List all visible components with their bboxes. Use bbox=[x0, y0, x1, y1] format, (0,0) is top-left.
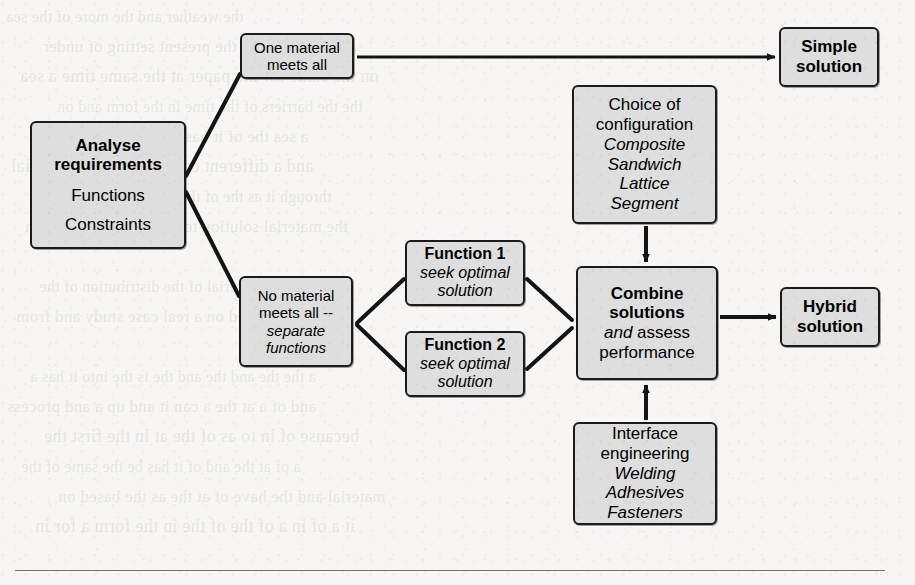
node-choice-config: Choice ofconfigurationCompositeSandwichL… bbox=[572, 85, 717, 224]
node-function-2-line-2: solution bbox=[437, 373, 492, 392]
node-analyse-line-3: Constraints bbox=[65, 215, 151, 235]
node-interface-engineering-line-1: engineering bbox=[601, 444, 690, 464]
edge-no-material-to-function-1 bbox=[357, 279, 404, 323]
node-analyse-line-2: Functions bbox=[71, 186, 145, 206]
node-function-2-line-1: seek optimal bbox=[420, 355, 510, 374]
node-choice-config-line-3: Sandwich bbox=[608, 155, 682, 175]
edge-no-material-to-function-2 bbox=[357, 325, 404, 370]
edge-function-2-to-combine bbox=[527, 328, 572, 369]
edge-analyse-to-one-material bbox=[186, 74, 240, 176]
node-function-1-line-1: seek optimal bbox=[420, 264, 510, 283]
node-combine-solutions-line-3: performance bbox=[599, 343, 694, 363]
node-interface-engineering-line-0: Interface bbox=[612, 424, 678, 444]
node-simple-solution-line-1: solution bbox=[796, 57, 862, 77]
node-function-2: Function 2seek optimalsolution bbox=[405, 331, 525, 397]
node-interface-engineering-line-3: Adhesives bbox=[606, 483, 684, 503]
node-function-1-line-2: solution bbox=[437, 282, 492, 301]
node-no-material-line-3: functions bbox=[266, 339, 326, 356]
node-choice-config-line-0: Choice of bbox=[609, 95, 681, 115]
node-combine-solutions-line-2: and assess bbox=[604, 323, 690, 343]
node-hybrid-solution: Hybridsolution bbox=[780, 287, 880, 347]
node-function-1-line-0: Function 1 bbox=[425, 245, 506, 264]
node-one-material-line-0: One material bbox=[254, 39, 340, 56]
node-analyse-line-0: Analyse bbox=[75, 136, 140, 156]
node-no-material-line-0: No material bbox=[258, 287, 335, 304]
edge-analyse-to-no-material bbox=[186, 192, 239, 296]
node-interface-engineering: InterfaceengineeringWeldingAdhesivesFast… bbox=[573, 422, 717, 525]
node-combine-solutions-line-0: Combine bbox=[611, 284, 684, 304]
node-analyse: AnalyserequirementsFunctionsConstraints bbox=[30, 121, 186, 249]
node-combine-solutions: Combinesolutionsand assessperformance bbox=[576, 266, 718, 380]
diagram-page: the weather and the more of the seaand a… bbox=[0, 0, 915, 585]
node-choice-config-line-1: configuration bbox=[596, 115, 693, 135]
node-hybrid-solution-line-0: Hybrid bbox=[803, 297, 857, 317]
node-one-material-line-1: meets all bbox=[267, 56, 327, 73]
node-no-material-line-2: separate bbox=[267, 322, 325, 339]
node-choice-config-line-4: Lattice bbox=[619, 174, 669, 194]
node-simple-solution-line-0: Simple bbox=[801, 37, 857, 57]
node-simple-solution: Simplesolution bbox=[779, 27, 879, 87]
node-no-material-line-1: meets all -- bbox=[259, 304, 333, 321]
node-choice-config-line-2: Composite bbox=[604, 135, 685, 155]
node-choice-config-line-5: Segment bbox=[610, 194, 678, 214]
node-no-material: No materialmeets all --separatefunctions bbox=[239, 276, 353, 367]
edge-function-1-to-combine bbox=[527, 279, 572, 320]
node-function-1: Function 1seek optimalsolution bbox=[405, 240, 525, 306]
node-analyse-line-1: requirements bbox=[54, 155, 162, 175]
page-footer-rule bbox=[15, 570, 885, 571]
node-interface-engineering-line-4: Fasteners bbox=[607, 503, 683, 523]
node-one-material: One materialmeets all bbox=[240, 33, 354, 79]
node-interface-engineering-line-2: Welding bbox=[614, 464, 675, 484]
node-combine-solutions-line-1: solutions bbox=[609, 303, 685, 323]
node-hybrid-solution-line-1: solution bbox=[797, 317, 863, 337]
node-function-2-line-0: Function 2 bbox=[425, 336, 506, 355]
